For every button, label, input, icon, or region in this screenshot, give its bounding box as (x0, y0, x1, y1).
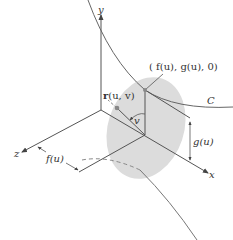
point-label: ( f(u), g(u), 0) (149, 61, 218, 72)
f-dimension-arrow-right (66, 163, 78, 170)
z-axis (22, 110, 101, 152)
f-dimension-arrow-left (38, 147, 46, 152)
z-axis-label: z (13, 148, 20, 159)
point-f-g (143, 88, 147, 92)
height-label: g(u) (193, 136, 214, 147)
r-label: r(u, v) (103, 90, 135, 101)
y-axis-label: y (97, 4, 104, 15)
surface-of-revolution-diagram: y z x ( f(u), g(u), 0) C r(u, v) v g(u) … (0, 0, 233, 240)
curve-lower (140, 170, 197, 240)
point-r (115, 106, 120, 111)
distance-label: f(u) (45, 153, 64, 164)
angle-label: v (134, 115, 140, 126)
curve-label: C (207, 95, 215, 106)
x-axis-label: x (209, 169, 215, 180)
revolution-circle (94, 67, 198, 189)
